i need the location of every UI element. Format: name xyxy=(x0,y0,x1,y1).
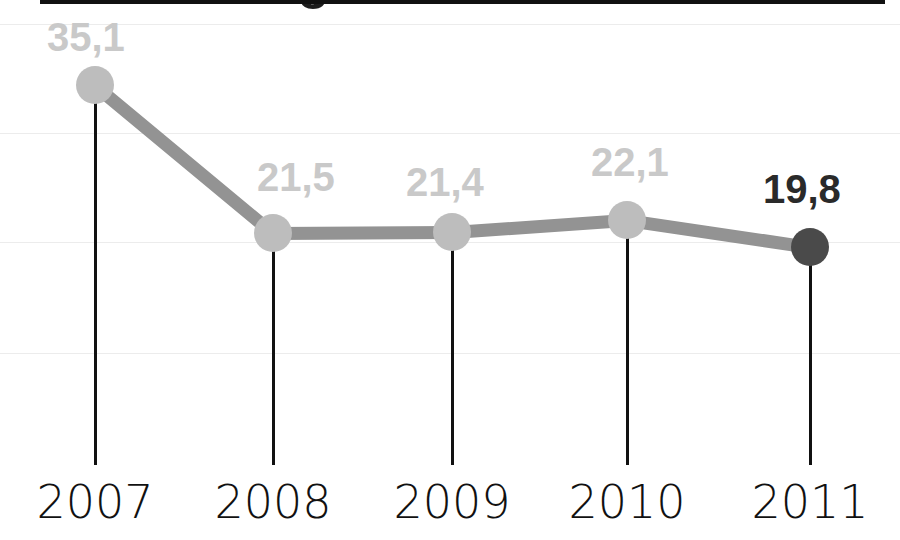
x-axis-label-2010: 2010 xyxy=(547,479,707,525)
gridline xyxy=(0,133,900,134)
line-segment xyxy=(452,214,628,239)
line-segment xyxy=(91,80,277,238)
x-axis-label-2008: 2008 xyxy=(193,479,353,525)
data-point-marker[interactable] xyxy=(433,213,471,251)
data-value-label: 22,1 xyxy=(591,142,669,182)
x-axis-label-2007: 2007 xyxy=(15,479,175,525)
drop-line xyxy=(809,247,812,465)
drop-line xyxy=(451,232,454,465)
line-segment xyxy=(626,214,811,254)
data-value-label: 19,8 xyxy=(763,169,841,209)
x-axis-label-2011: 2011 xyxy=(730,479,890,525)
data-value-label: 35,1 xyxy=(47,17,125,57)
plot-area: 35,121,521,422,119,8 2007200820092010201… xyxy=(0,0,900,540)
data-point-marker[interactable] xyxy=(791,228,829,266)
drop-line xyxy=(626,220,629,465)
line-segment xyxy=(273,226,452,240)
gridline xyxy=(0,24,900,25)
x-axis-line xyxy=(40,0,885,4)
chart-canvas: Arbeitslosigkeit 35,121,521,422,119,8 20… xyxy=(0,0,900,540)
data-value-label: 21,5 xyxy=(257,157,335,197)
data-point-marker[interactable] xyxy=(254,214,292,252)
x-axis-label-2009: 2009 xyxy=(372,479,532,525)
drop-line xyxy=(272,233,275,465)
data-value-label: 21,4 xyxy=(406,162,484,202)
data-point-marker[interactable] xyxy=(76,66,114,104)
drop-line xyxy=(94,85,97,465)
data-point-marker[interactable] xyxy=(608,201,646,239)
